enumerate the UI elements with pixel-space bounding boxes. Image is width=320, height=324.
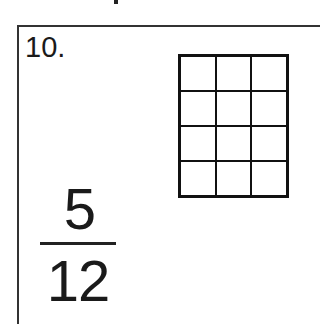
grid-cell[interactable] [251, 161, 287, 196]
partial-character-mark [114, 0, 118, 4]
grid-cell[interactable] [216, 56, 252, 91]
fraction-numerator: 5 [44, 180, 116, 238]
grid-cell[interactable] [251, 126, 287, 161]
grid-cell[interactable] [216, 126, 252, 161]
grid-cell[interactable] [216, 91, 252, 126]
grid-cell[interactable] [251, 56, 287, 91]
fraction-denominator: 12 [40, 252, 116, 310]
problem-number: 10. [25, 33, 65, 62]
fraction-bar [40, 242, 116, 245]
grid-cell[interactable] [180, 126, 216, 161]
grid-cell[interactable] [251, 91, 287, 126]
frame-left-border [17, 25, 19, 324]
grid-cell[interactable] [180, 91, 216, 126]
grid-cell[interactable] [216, 161, 252, 196]
grid-cell[interactable] [180, 56, 216, 91]
fraction-grid [178, 54, 289, 198]
frame-top-border [17, 25, 320, 27]
grid-cell[interactable] [180, 161, 216, 196]
